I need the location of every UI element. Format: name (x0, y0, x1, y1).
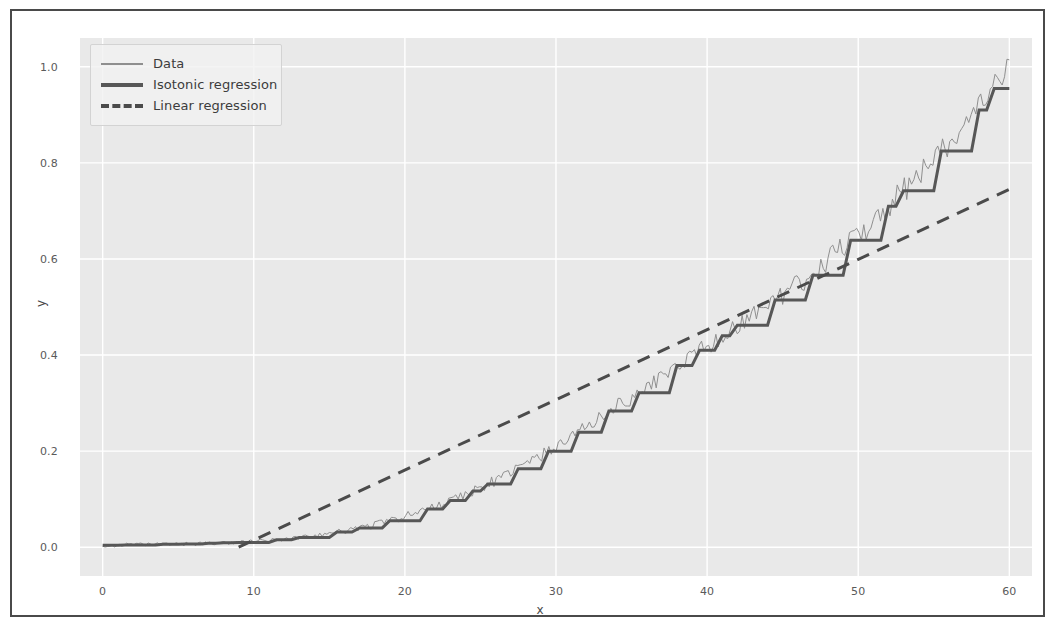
figure-frame: 0.00.20.40.60.81.0 0102030405060 y x Dat… (10, 9, 1045, 617)
y-tick-label: 0.8 (40, 156, 58, 169)
legend-label-linear: Linear regression (153, 98, 267, 113)
x-tick-label: 30 (549, 585, 563, 598)
x-tick-label: 40 (700, 585, 714, 598)
y-tick-label: 0.0 (40, 541, 58, 554)
legend-swatch-linear-icon (101, 100, 143, 112)
y-tick-label: 0.4 (40, 349, 58, 362)
legend-entry-isotonic: Isotonic regression (101, 74, 271, 95)
chart-legend: Data Isotonic regression Linear regressi… (90, 44, 282, 126)
legend-swatch-isotonic-icon (101, 79, 143, 91)
series-linear-regression (239, 189, 1010, 547)
x-tick-label: 0 (99, 585, 106, 598)
x-tick-label: 20 (398, 585, 412, 598)
chart-figure: 0.00.20.40.60.81.0 0102030405060 y x Dat… (0, 0, 1056, 631)
legend-entry-linear: Linear regression (101, 95, 271, 116)
legend-swatch-data-icon (101, 58, 143, 70)
y-axis-label: y (34, 300, 48, 307)
y-tick-label: 0.2 (40, 445, 58, 458)
x-tick-label: 60 (1002, 585, 1016, 598)
x-axis-label: x (12, 603, 1056, 617)
x-tick-label: 10 (247, 585, 261, 598)
legend-label-data: Data (153, 56, 184, 71)
x-axis-ticks: 0102030405060 (80, 585, 1032, 603)
x-tick-label: 50 (851, 585, 865, 598)
legend-label-isotonic: Isotonic regression (153, 77, 277, 92)
legend-entry-data: Data (101, 53, 271, 74)
y-axis-ticks: 0.00.20.40.60.81.0 (12, 38, 70, 576)
y-tick-label: 1.0 (40, 60, 58, 73)
y-tick-label: 0.6 (40, 252, 58, 265)
